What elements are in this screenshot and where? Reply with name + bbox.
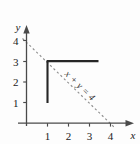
graph-figure: 4 3 2 1 1 2 3 4 y x x + y = 4: [0, 0, 140, 144]
x-tick-label-1: 1: [45, 130, 51, 142]
constraint-line-label: x + y = 4: [62, 68, 97, 103]
y-axis-group: [23, 25, 30, 126]
y-tick-label-4: 4: [13, 35, 19, 47]
coordinate-plot: 4 3 2 1 1 2 3 4 y x x + y = 4: [0, 0, 140, 144]
x-tick-label-4: 4: [108, 130, 114, 142]
y-axis-label: y: [15, 21, 21, 33]
x-tick-label-3: 3: [87, 130, 93, 142]
constraint-line-group: [23, 39, 115, 128]
x-axis-group: [18, 120, 134, 127]
y-axis-arrowhead: [23, 25, 29, 34]
x-axis-arrowhead: [126, 120, 135, 126]
constraint-line-dashed: [23, 39, 115, 128]
x-tick-label-2: 2: [66, 130, 72, 142]
y-tick-label-1: 1: [13, 97, 19, 109]
y-tick-label-3: 3: [13, 56, 19, 68]
y-tick-label-2: 2: [13, 76, 19, 88]
x-axis-label: x: [130, 129, 136, 141]
